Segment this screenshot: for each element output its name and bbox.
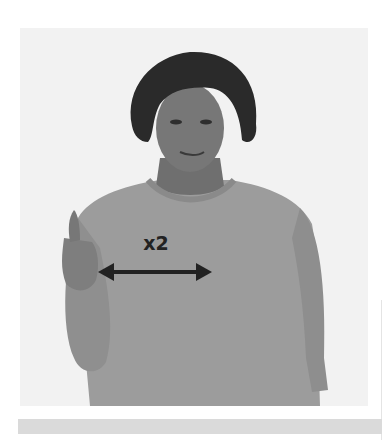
sign-photo: x2	[20, 28, 368, 406]
caption-bar	[18, 419, 382, 434]
sweater	[78, 180, 320, 406]
person-illustration	[20, 28, 368, 406]
repeat-count-label: x2	[136, 232, 176, 254]
